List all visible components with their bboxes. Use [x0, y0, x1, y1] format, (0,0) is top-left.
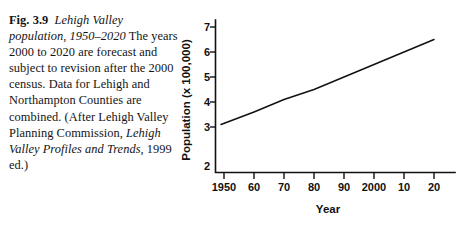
x-axis-title: Year: [316, 203, 341, 215]
y-tick-label-2: 2: [204, 160, 210, 172]
figure-page: Fig. 3.9 Lehigh Valley population, 1950–…: [0, 0, 463, 226]
y-tick-label-4: 4: [204, 96, 211, 108]
x-tick-label-2000: 2000: [362, 181, 386, 193]
x-tick-label-1990: 90: [338, 181, 350, 193]
x-tick-label-1970: 70: [278, 181, 290, 193]
x-tick-label-2010: 10: [398, 181, 410, 193]
x-tick-label-2020: 20: [428, 181, 440, 193]
x-tick-label-1950: 1950: [212, 181, 236, 193]
y-tick-label-6: 6: [204, 46, 210, 58]
chart-svg: Population (x 100,000) 7 6 5 4 3 2: [176, 0, 463, 226]
population-trend-line: [221, 40, 434, 125]
figure-caption: Fig. 3.9 Lehigh Valley population, 1950–…: [9, 12, 181, 173]
y-tick-label-3: 3: [204, 121, 210, 133]
x-tick-label-1960: 60: [248, 181, 260, 193]
axis-spines: [216, 20, 456, 173]
y-axis-title: Population (x 100,000): [180, 39, 192, 161]
caption-body-first: The years 2000 to 2020 are forecast and …: [9, 29, 178, 140]
x-tick-label-1980: 80: [308, 181, 320, 193]
y-tick-label-7: 7: [204, 21, 210, 33]
figure-number: Fig. 3.9: [9, 13, 48, 27]
line-chart: Population (x 100,000) 7 6 5 4 3 2: [176, 0, 463, 226]
y-tick-label-5: 5: [204, 71, 210, 83]
